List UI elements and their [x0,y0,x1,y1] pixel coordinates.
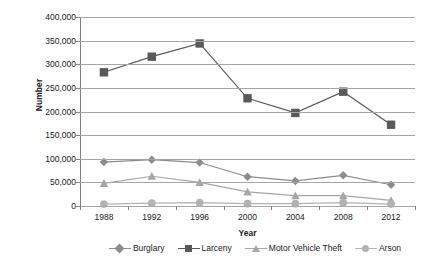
x-tick-label: 2012 [364,212,418,222]
x-tick-mark [224,206,225,210]
x-tick-label: 1988 [77,212,131,222]
line-chart: Number 050,000100,000150,000200,000250,0… [0,0,433,264]
legend-swatch [109,243,131,253]
y-tick-mark [75,64,80,65]
legend-label: Arson [379,243,401,253]
gridline [80,182,415,183]
chart-legend: BurglaryLarcenyMotor Vehicle TheftArson [80,240,430,256]
legend-label: Burglary [133,243,165,253]
data-point-marker [387,121,395,129]
legend-item-motor-vehicle-theft[interactable]: Motor Vehicle Theft [245,243,342,253]
data-point-marker [291,109,299,117]
x-tick-label: 1992 [125,212,179,222]
y-tick-mark [75,17,80,18]
y-tick-label: 150,000 [14,131,76,139]
series-line [104,160,391,185]
legend-item-arson[interactable]: Arson [355,243,401,253]
data-point-marker [148,172,156,180]
gridline [80,159,415,160]
y-tick-mark [75,135,80,136]
y-tick-mark [75,182,80,183]
y-tick-mark [75,112,80,113]
diamond-marker-icon [114,243,124,253]
y-tick-mark [75,41,80,42]
data-point-marker [100,68,108,76]
y-axis-tick-labels: 050,000100,000150,000200,000250,000300,0… [14,0,76,264]
gridline [80,112,415,113]
data-point-marker [148,52,156,60]
x-tick-label: 1996 [173,212,227,222]
legend-swatch [355,243,377,253]
y-tick-label: 400,000 [14,13,76,21]
data-point-marker [339,171,347,179]
x-tick-mark [176,206,177,210]
x-tick-mark [80,206,81,210]
y-tick-mark [75,88,80,89]
y-tick-label: 300,000 [14,60,76,68]
series-larceny [100,39,396,129]
y-tick-label: 100,000 [14,155,76,163]
gridline [80,88,415,89]
x-axis-title: Year [80,228,415,238]
circle-marker-icon [362,245,369,252]
gridline [80,41,415,42]
y-tick-label: 350,000 [14,37,76,45]
legend-label: Larceny [202,243,232,253]
legend-item-burglary[interactable]: Burglary [109,243,165,253]
legend-swatch [245,243,267,253]
x-tick-mark [128,206,129,210]
square-marker-icon [185,245,192,252]
x-tick-label: 2008 [316,212,370,222]
y-tick-label: 250,000 [14,84,76,92]
gridline [80,17,415,18]
y-tick-mark [75,159,80,160]
x-tick-mark [319,206,320,210]
x-tick-mark [415,206,416,210]
triangle-marker-icon [252,245,260,252]
legend-item-larceny[interactable]: Larceny [178,243,232,253]
plot-area [80,17,415,206]
gridline [80,64,415,65]
x-tick-label: 2004 [268,212,322,222]
gridline [80,135,415,136]
data-point-marker [243,94,251,102]
series-burglary [100,155,396,188]
y-tick-label: 50,000 [14,178,76,186]
gridline [80,206,415,207]
series-line [104,43,391,124]
legend-swatch [178,243,200,253]
x-tick-label: 2000 [221,212,275,222]
data-point-marker [291,177,299,185]
x-tick-mark [271,206,272,210]
y-tick-label: 200,000 [14,108,76,116]
data-point-marker [243,173,251,181]
legend-label: Motor Vehicle Theft [269,243,342,253]
x-tick-mark [367,206,368,210]
y-tick-label: 0 [14,202,76,210]
